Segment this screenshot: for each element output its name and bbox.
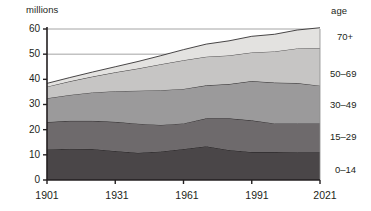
stacked-area-chart: millions age 60 50 40 30 20 10 0 1901 19…: [0, 0, 371, 211]
series-label-50-69: 50–69: [330, 68, 356, 79]
y-tick-label-30: 30: [18, 98, 40, 109]
series-label-70plus: 70+: [337, 31, 353, 42]
y-tick-label-0: 0: [18, 174, 40, 185]
series-label-15-29: 15–29: [330, 131, 356, 142]
series-label-0-14: 0–14: [335, 164, 356, 175]
x-tick-label-2021: 2021: [305, 189, 345, 201]
y-tick-label-40: 40: [18, 73, 40, 84]
x-tick-label-1991: 1991: [237, 189, 277, 201]
x-tick-label-1901: 1901: [27, 189, 67, 201]
series-label-30-49: 30–49: [330, 99, 356, 110]
y-tick-label-20: 20: [18, 124, 40, 135]
y-tick-label-50: 50: [18, 48, 40, 59]
plot-area: [0, 0, 371, 211]
y-tick-label-10: 10: [18, 149, 40, 160]
x-tick-label-1931: 1931: [97, 189, 137, 201]
x-tick-label-1961: 1961: [167, 189, 207, 201]
y-tick-label-60: 60: [18, 23, 40, 34]
